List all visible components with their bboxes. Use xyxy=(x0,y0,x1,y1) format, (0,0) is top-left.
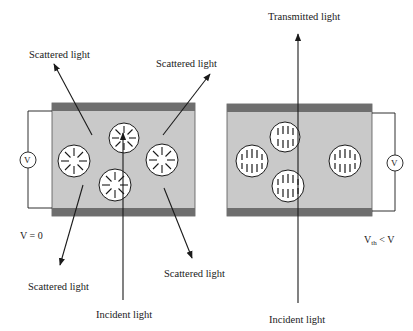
label-scattered-bottom-right: Scattered light xyxy=(164,269,225,280)
label-incident-left: Incident light xyxy=(96,310,152,321)
label-scattered-bottom-left: Scattered light xyxy=(28,282,89,293)
top-electrode xyxy=(227,104,372,112)
label-voltage-zero: V = 0 xyxy=(20,231,43,241)
voltmeter-label-right: V xyxy=(391,159,398,168)
label-incident-right: Incident light xyxy=(269,315,325,326)
voltmeter-label-left: V xyxy=(24,156,31,165)
label-threshold-voltage: Vth < V xyxy=(364,235,394,247)
label-scattered-top-left: Scattered light xyxy=(29,50,90,61)
bottom-electrode xyxy=(227,208,372,216)
top-electrode xyxy=(52,103,195,111)
right-circuit xyxy=(372,113,403,211)
label-transmitted: Transmitted light xyxy=(268,12,340,23)
label-scattered-top-right: Scattered light xyxy=(156,59,217,70)
